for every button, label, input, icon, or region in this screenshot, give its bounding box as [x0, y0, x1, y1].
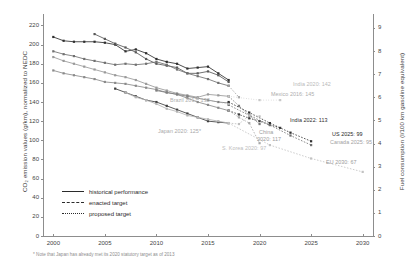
- data-point-marker: [52, 50, 54, 52]
- data-point-marker: [52, 56, 54, 58]
- data-point-marker: [166, 105, 168, 107]
- data-point-marker: [145, 83, 147, 85]
- data-point-marker: [228, 103, 230, 105]
- data-point-marker: [238, 123, 240, 125]
- data-point-marker: [258, 123, 260, 125]
- y-tick-left-label: 60: [17, 175, 39, 181]
- y-tick-left-label: 200: [17, 41, 39, 47]
- y-tick-left-mark: [41, 25, 43, 26]
- y-tick-left-mark: [41, 236, 43, 237]
- data-point-marker: [145, 87, 147, 89]
- data-point-marker: [186, 114, 188, 116]
- series-annotation: EU 2030: 67: [326, 159, 357, 165]
- series-line: [53, 70, 228, 110]
- y-tick-left-mark: [41, 159, 43, 160]
- data-point-marker: [362, 171, 364, 173]
- data-point-marker: [176, 63, 178, 65]
- y-tick-left-label: 160: [17, 79, 39, 85]
- series-line: [229, 111, 260, 144]
- y-tick-right-label: 5: [378, 117, 400, 123]
- x-tick-label: 2010: [141, 240, 171, 246]
- data-point-marker: [310, 157, 312, 159]
- y-tick-right-mark: [373, 74, 375, 75]
- data-point-marker: [166, 89, 168, 91]
- x-axis-line: [43, 236, 373, 237]
- data-point-marker: [176, 93, 178, 95]
- chart-footnote: * Note that Japan has already met its 20…: [33, 252, 174, 257]
- y-tick-left-mark: [41, 198, 43, 199]
- series-s-korea: [52, 69, 230, 111]
- data-point-marker: [73, 55, 75, 57]
- y-tick-left-label: 40: [17, 194, 39, 200]
- data-point-marker: [166, 108, 168, 110]
- data-point-marker: [155, 63, 157, 65]
- series-line: [229, 86, 239, 97]
- y-tick-left-mark: [41, 64, 43, 65]
- data-point-marker: [310, 140, 312, 142]
- data-point-marker: [93, 78, 95, 80]
- y-tick-left-mark: [41, 102, 43, 103]
- y-tick-left-mark: [41, 83, 43, 84]
- series-china: [52, 56, 230, 98]
- data-point-marker: [114, 64, 116, 66]
- data-point-marker: [63, 72, 65, 74]
- data-point-marker: [248, 117, 250, 119]
- data-point-marker: [145, 63, 147, 65]
- data-point-marker: [155, 58, 157, 60]
- data-point-marker: [145, 52, 147, 54]
- data-point-marker: [186, 72, 188, 74]
- x-tick-mark: [311, 234, 312, 236]
- data-point-marker: [155, 87, 157, 89]
- x-tick-mark: [53, 234, 54, 236]
- y-tick-left-label: 220: [17, 22, 39, 28]
- y-tick-left-label: 0: [17, 233, 39, 239]
- series-annotation: India 2022: 113: [290, 117, 328, 123]
- data-point-marker: [217, 120, 219, 122]
- x-tick-label: 2025: [296, 240, 326, 246]
- y-tick-right-label: 7: [378, 71, 400, 77]
- data-point-marker: [135, 96, 137, 98]
- data-point-marker: [166, 61, 168, 63]
- data-point-marker: [228, 122, 230, 124]
- data-point-marker: [228, 79, 230, 81]
- data-point-marker: [52, 69, 54, 71]
- data-point-marker: [176, 68, 178, 70]
- series-annotation: 2020: 117: [257, 136, 281, 142]
- data-point-marker: [83, 66, 85, 68]
- y-tick-right-label: 3: [378, 163, 400, 169]
- y-tick-right-mark: [373, 97, 375, 98]
- data-point-marker: [63, 60, 65, 62]
- series-annotation: Japan 2020: 125*: [158, 128, 201, 134]
- data-point-marker: [269, 144, 271, 146]
- y-tick-right-label: 1: [378, 209, 400, 215]
- legend-key-dotted-icon: [62, 210, 84, 218]
- series-s-korea-target: [228, 110, 261, 145]
- data-point-marker: [197, 116, 199, 118]
- legend-key-solid-icon: [62, 188, 84, 196]
- y-tick-left-label: 140: [17, 99, 39, 105]
- data-point-marker: [228, 110, 230, 112]
- data-point-marker: [176, 66, 178, 68]
- y-tick-left-label: 180: [17, 60, 39, 66]
- x-tick-mark: [363, 234, 364, 236]
- data-point-marker: [93, 33, 95, 35]
- data-point-marker: [197, 75, 199, 77]
- x-tick-label: 2005: [90, 240, 120, 246]
- x-tick-mark: [105, 234, 106, 236]
- data-point-marker: [114, 74, 116, 76]
- data-point-marker: [124, 50, 126, 52]
- data-point-marker: [83, 41, 85, 43]
- data-point-marker: [114, 88, 116, 90]
- data-point-marker: [217, 94, 219, 96]
- data-point-marker: [114, 82, 116, 84]
- x-tick-label: 2020: [245, 240, 275, 246]
- data-point-marker: [238, 113, 240, 115]
- y-tick-left-mark: [41, 217, 43, 218]
- data-point-marker: [83, 76, 85, 78]
- data-point-marker: [217, 82, 219, 84]
- y-tick-left-mark: [41, 121, 43, 122]
- data-point-marker: [124, 46, 126, 48]
- y-tick-right-mark: [373, 236, 375, 237]
- y-tick-right-mark: [373, 144, 375, 145]
- data-point-marker: [238, 105, 240, 107]
